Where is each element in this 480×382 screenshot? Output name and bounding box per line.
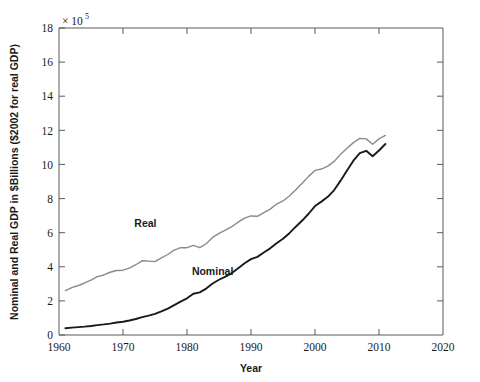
y-tick-label: 0 — [47, 329, 53, 341]
y-tick-label: 8 — [47, 193, 53, 205]
y-tick-label: 4 — [47, 261, 53, 273]
y-axis-title: Nominal and Real GDP in $Billions ($2002… — [8, 44, 20, 320]
y-tick-label: 6 — [47, 227, 53, 239]
x-tick-label: 2010 — [368, 341, 391, 353]
x-tick-label: 2000 — [304, 341, 327, 353]
chart-background — [0, 0, 480, 382]
chart-canvas: 0 2 4 6 8 10 12 14 16 18 × 10 5 1960 197… — [0, 0, 480, 382]
y-exponent-base: × 10 — [62, 15, 83, 27]
x-tick-label: 1980 — [176, 341, 199, 353]
x-tick-label: 1960 — [48, 341, 71, 353]
y-tick-label: 12 — [42, 125, 54, 137]
x-tick-label: 1990 — [240, 341, 263, 353]
y-exponent-power: 5 — [85, 12, 89, 21]
y-tick-label: 18 — [42, 22, 54, 34]
y-tick-label: 14 — [42, 90, 54, 102]
series-annotation-real: Real — [134, 217, 156, 229]
series-annotation-nominal: Nominal — [192, 265, 234, 277]
y-tick-label: 10 — [42, 159, 54, 171]
x-tick-label: 2020 — [432, 341, 455, 353]
x-tick-label: 1970 — [112, 341, 135, 353]
y-tick-label: 2 — [47, 295, 53, 307]
x-axis-title: Year — [240, 362, 262, 374]
y-tick-label: 16 — [42, 56, 54, 68]
gdp-chart-figure: 0 2 4 6 8 10 12 14 16 18 × 10 5 1960 197… — [0, 0, 480, 382]
